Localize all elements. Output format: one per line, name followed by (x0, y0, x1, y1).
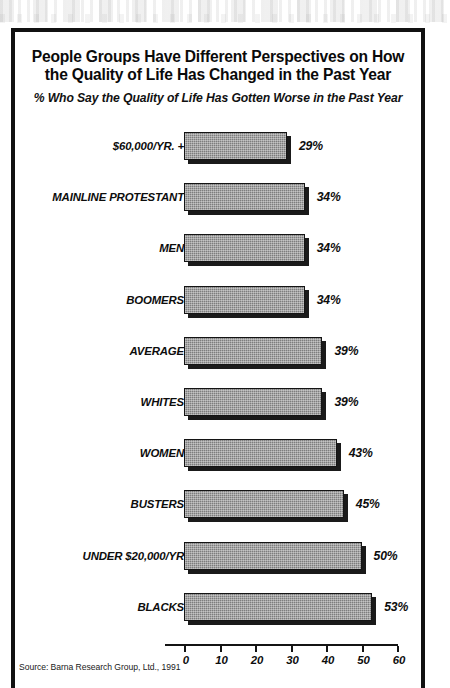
x-axis-tick-label: 30 (278, 654, 308, 666)
bar-value-label: 39% (334, 395, 358, 409)
x-axis-tick (326, 646, 328, 652)
bar (184, 132, 287, 160)
source-note: Source: Barna Research Group, Ltd., 1991 (19, 662, 180, 672)
bar-row: UNDER $20,000/YR50% (15, 539, 421, 573)
chart-container: People Groups Have Different Perspective… (15, 32, 421, 684)
x-axis-tick (362, 646, 364, 652)
bar-value-label: 34% (317, 241, 341, 255)
bar-row: WOMEN43% (15, 436, 421, 470)
chart-subtitle: % Who Say the Quality of Life Has Gotten… (15, 91, 421, 105)
bar-category-label: MEN (4, 242, 184, 254)
bar-category-label: UNDER $20,000/YR (4, 550, 184, 562)
bar-value-label: 43% (349, 446, 373, 460)
bar-value-label: 29% (299, 139, 323, 153)
bar-category-label: BUSTERS (4, 498, 184, 510)
x-axis-tick (291, 646, 293, 652)
bar-row: MAINLINE PROTESTANT34% (15, 180, 421, 214)
plot-area: $60,000/YR. +29%MAINLINE PROTESTANT34%ME… (15, 125, 421, 637)
bar-category-label: WOMEN (4, 447, 184, 459)
bar (184, 183, 305, 211)
bar-category-label: AVERAGE (4, 345, 184, 357)
bar-row: AVERAGE39% (15, 334, 421, 368)
bar-value-label: 45% (356, 497, 380, 511)
bar-category-label: WHITES (4, 396, 184, 408)
x-axis-tick-label: 60 (384, 654, 414, 666)
bar-row: $60,000/YR. +29% (15, 129, 421, 163)
x-axis-tick-label: 40 (313, 654, 343, 666)
bar (184, 593, 372, 621)
bar-value-label: 34% (317, 190, 341, 204)
bar-category-label: BLACKS (4, 601, 184, 613)
x-axis-tick (397, 646, 399, 652)
bar-row: WHITES39% (15, 385, 421, 419)
x-axis-tick-label: 50 (349, 654, 379, 666)
bar (184, 490, 344, 518)
x-axis-tick (220, 646, 222, 652)
bar (184, 388, 322, 416)
bar (184, 286, 305, 314)
chart-title: People Groups Have Different Perspective… (15, 32, 421, 84)
x-axis-tick-label: 20 (242, 654, 272, 666)
bar-value-label: 39% (334, 344, 358, 358)
bar-category-label: $60,000/YR. + (4, 140, 184, 152)
x-axis-tick (184, 646, 186, 652)
x-axis-tick-label: 10 (207, 654, 237, 666)
bar (184, 439, 337, 467)
bar (184, 337, 322, 365)
bar (184, 234, 305, 262)
x-axis-tick (255, 646, 257, 652)
bar-row: BLACKS53% (15, 590, 421, 624)
bar-row: MEN34% (15, 231, 421, 265)
bar-value-label: 53% (384, 600, 408, 614)
bar-category-label: BOOMERS (4, 294, 184, 306)
bar-row: BUSTERS45% (15, 487, 421, 521)
scan-noise-band-secondary (0, 14, 450, 23)
bar-value-label: 50% (374, 549, 398, 563)
bar-value-label: 34% (317, 293, 341, 307)
bar (184, 542, 362, 570)
bar-category-label: MAINLINE PROTESTANT (4, 191, 184, 203)
bar-row: BOOMERS34% (15, 283, 421, 317)
